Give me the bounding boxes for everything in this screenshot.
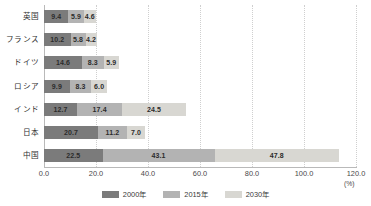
bar-value-label: 9.9 [44,80,70,93]
bar-segment: 5.9 [68,10,83,23]
bar-segment: 12.7 [44,103,77,116]
bar-value-label: 8.3 [70,80,92,93]
bar-segment: 20.7 [44,126,98,139]
bar-value-label: 22.5 [44,149,103,162]
legend-item[interactable]: 2015年 [163,190,207,199]
legend-swatch [225,191,242,198]
bar-segment: 6.0 [91,80,107,93]
bar-segment: 22.5 [44,149,103,162]
category-label: フランス [0,33,39,46]
bar-value-label: 5.8 [71,33,86,46]
category-label: ドイツ [0,56,39,69]
gridline [252,5,253,167]
chart-legend: 2000年2015年2030年 [0,190,371,199]
bar-value-label: 6.0 [91,80,107,93]
axis-unit-label: (%) [344,180,355,187]
category-label: インド [0,103,39,116]
bar-value-label: 7.0 [127,126,145,139]
bar-segment: 4.6 [84,10,96,23]
bar-row: 中国22.543.147.8 [44,149,339,162]
bar-value-label: 24.5 [122,103,186,116]
bar-value-label: 5.9 [68,10,83,23]
legend-swatch [102,191,119,198]
bar-value-label: 14.6 [44,56,82,69]
bar-row: フランス10.25.84.2 [44,33,97,46]
bar-row: 英国9.45.94.6 [44,10,96,23]
x-tick-label: 0.0 [24,169,64,178]
legend-label: 2015年 [184,190,207,199]
x-tick-label: 20.0 [76,169,116,178]
bar-segment: 24.5 [122,103,186,116]
bar-row: ドイツ14.68.35.9 [44,56,119,69]
gridline [200,5,201,167]
category-label: ロシア [0,80,39,93]
bar-segment: 43.1 [103,149,215,162]
bar-segment: 4.2 [86,33,97,46]
bar-segment: 8.3 [82,56,104,69]
bar-segment: 9.9 [44,80,70,93]
bar-value-label: 47.8 [215,149,339,162]
stacked-bar-chart: 英国9.45.94.6フランス10.25.84.2ドイツ14.68.35.9ロシ… [0,0,371,206]
gridline [356,5,357,167]
bar-value-label: 11.2 [98,126,127,139]
bar-value-label: 8.3 [82,56,104,69]
bar-segment: 9.4 [44,10,68,23]
bar-value-label: 9.4 [44,10,68,23]
legend-item[interactable]: 2000年 [102,190,146,199]
gridline [304,5,305,167]
x-tick-label: 80.0 [232,169,272,178]
bar-segment: 14.6 [44,56,82,69]
bar-value-label: 43.1 [103,149,215,162]
bar-segment: 47.8 [215,149,339,162]
bar-row: 日本20.711.27.0 [44,126,145,139]
legend-label: 2030年 [246,190,269,199]
bar-value-label: 12.7 [44,103,77,116]
bar-value-label: 20.7 [44,126,98,139]
bar-value-label: 10.2 [44,33,71,46]
x-tick-label: 100.0 [284,169,324,178]
bar-segment: 5.8 [71,33,86,46]
bar-segment: 10.2 [44,33,71,46]
x-tick-label: 120.0 [336,169,371,178]
bar-segment: 11.2 [98,126,127,139]
bar-value-label: 5.9 [104,56,119,69]
bar-segment: 5.9 [104,56,119,69]
bar-value-label: 4.6 [84,10,96,23]
bar-row: ロシア9.98.36.0 [44,80,107,93]
bar-value-label: 17.4 [77,103,122,116]
category-label: 英国 [0,10,39,23]
legend-label: 2000年 [123,190,146,199]
bar-segment: 17.4 [77,103,122,116]
x-tick-label: 60.0 [180,169,220,178]
bar-row: インド12.717.424.5 [44,103,186,116]
bar-segment: 8.3 [70,80,92,93]
legend-swatch [163,191,180,198]
gridline [148,5,149,167]
x-tick-label: 40.0 [128,169,168,178]
plot-area: 英国9.45.94.6フランス10.25.84.2ドイツ14.68.35.9ロシ… [44,5,356,167]
bar-value-label: 4.2 [86,33,97,46]
legend-item[interactable]: 2030年 [225,190,269,199]
x-axis-line [44,167,357,168]
category-label: 日本 [0,126,39,139]
bar-segment: 7.0 [127,126,145,139]
category-label: 中国 [0,149,39,162]
